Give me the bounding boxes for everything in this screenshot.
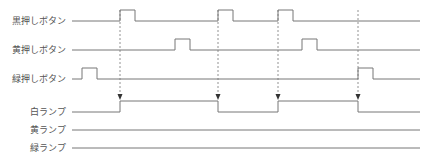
arrow-down-icon xyxy=(118,94,123,100)
signal-label: 緑押しボタン xyxy=(12,73,66,84)
timing-chart: 黒押しボタン黄押しボタン緑押しボタン白ランプ黄ランプ緑ランプ xyxy=(0,0,430,157)
signal-label: 黄ランプ xyxy=(30,124,66,135)
signal-label: 黄押しボタン xyxy=(12,44,66,55)
signal-label: 黒押しボタン xyxy=(12,15,66,26)
signal-label: 白ランプ xyxy=(30,106,66,117)
signal-waveform xyxy=(72,10,420,21)
signal-waveform xyxy=(72,68,420,79)
arrow-down-icon xyxy=(216,94,221,100)
arrow-down-icon xyxy=(276,94,281,100)
signal-label: 緑ランプ xyxy=(30,142,66,153)
signal-waveform xyxy=(72,101,420,112)
signal-waveform xyxy=(72,39,420,50)
arrow-down-icon xyxy=(356,94,361,100)
